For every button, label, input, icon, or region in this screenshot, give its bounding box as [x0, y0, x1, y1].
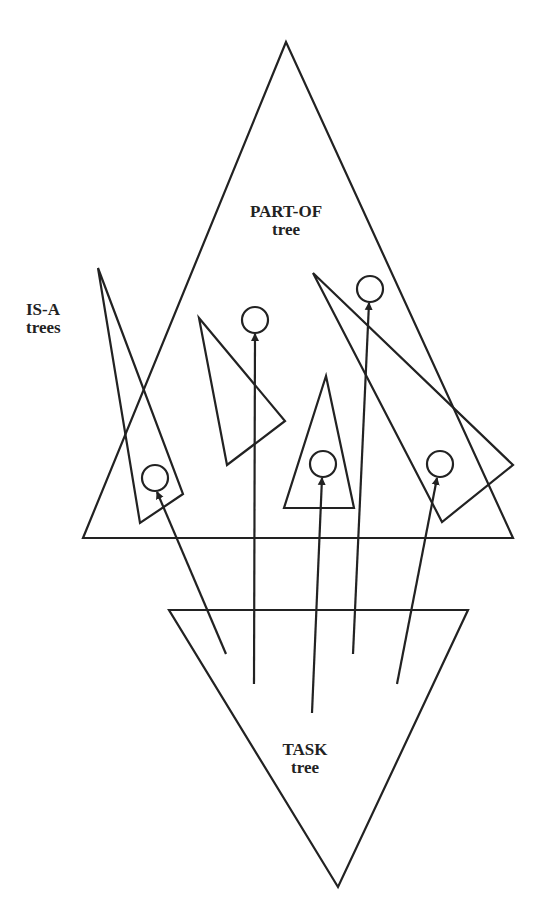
is-a-label-line1: IS-A: [26, 301, 96, 319]
node-circle-3: [310, 451, 336, 477]
link-arrow-1: [157, 492, 226, 654]
node-circle-1: [142, 465, 168, 491]
node-circle-2: [242, 307, 268, 333]
part-of-label-line2: tree: [226, 221, 346, 239]
node-circle-5: [427, 451, 453, 477]
is-a-trees-label: IS-A trees: [26, 301, 96, 337]
diagram-canvas: [0, 0, 544, 924]
is-a-tree-triangle-4: [313, 273, 513, 522]
task-label-line1: TASK: [260, 741, 350, 759]
part-of-label-line1: PART-OF: [226, 203, 346, 221]
is-a-tree-triangle-2: [199, 318, 285, 465]
task-tree-label: TASK tree: [260, 741, 350, 777]
is-a-tree-triangle-3: [284, 376, 354, 508]
link-arrow-2: [254, 334, 255, 684]
task-label-line2: tree: [260, 759, 350, 777]
part-of-tree-label: PART-OF tree: [226, 203, 346, 239]
link-arrow-3: [312, 478, 322, 713]
link-arrow-5: [397, 478, 437, 684]
is-a-label-line2: trees: [26, 319, 96, 337]
node-circle-4: [357, 276, 383, 302]
